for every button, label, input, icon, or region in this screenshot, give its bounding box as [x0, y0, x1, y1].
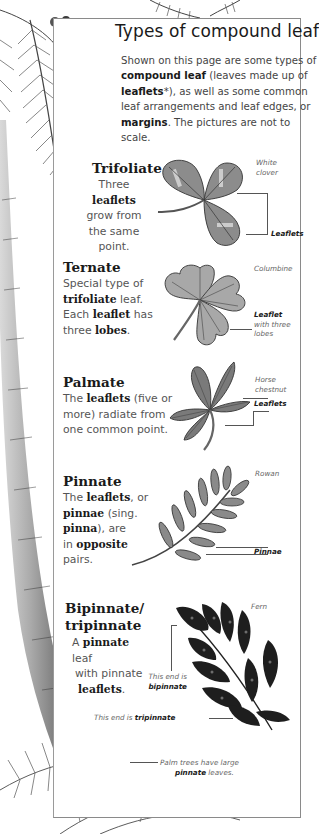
ternate-leaflet-label: Leaflet with three lobes: [254, 310, 300, 339]
columbine-leaf-icon: [160, 260, 250, 350]
bipinnate-description: A pinnate leaf with pinnate leaflets.: [72, 635, 152, 697]
fern-leaf-icon: [172, 600, 292, 735]
page-title: Types of compound leaf: [115, 21, 315, 41]
trifoliate-description: Three leaflets grow from the same point.: [72, 177, 156, 255]
pinnate-heading: Pinnate: [63, 473, 121, 489]
ternate-leader: [230, 329, 252, 330]
trifoliate-leader-top: [237, 193, 267, 194]
tripinnate-leader: [209, 718, 233, 719]
trifoliate-leader-vertical: [267, 193, 268, 234]
palmate-leaflets-label: Leaflets: [254, 399, 287, 409]
palm-note: Palm trees have large pinnate leaves.: [160, 758, 260, 777]
palmate-leader-mid: [253, 411, 269, 412]
palmate-leader-vertical: [253, 411, 254, 425]
columbine-caption: Columbine: [254, 264, 293, 274]
trifoliate-leaflets-label: Leaflets: [271, 229, 304, 239]
tripinnate-end-label: This end is tripinnate: [94, 713, 175, 723]
trifoliate-leader-bottom: [246, 234, 268, 235]
palmate-heading: Palmate: [63, 374, 125, 390]
ternate-description: Special type of trifoliate leaf. Each le…: [63, 276, 163, 338]
clover-caption: White clover: [256, 158, 296, 177]
pinnae-label: Pinnae: [254, 547, 282, 557]
palmate-description: The leaflets (five or more) radiate from…: [63, 391, 173, 438]
rowan-leaf-icon: [130, 470, 250, 570]
rowan-caption: Rowan: [255, 469, 279, 479]
bipinnate-leader-top: [171, 625, 177, 626]
fern-caption: Fern: [251, 602, 267, 612]
bipinnate-leader-vertical: [171, 625, 172, 671]
bipinnate-end-label: This end is bipinnate: [145, 672, 187, 691]
horse-chestnut-leaf-icon: [168, 360, 253, 455]
trifoliate-heading: Trifoliate: [92, 160, 162, 176]
ternate-heading: Ternate: [63, 259, 121, 275]
bipinnate-heading: Bipinnate/ tripinnate: [65, 600, 144, 634]
horse-chestnut-caption: Horse chestnut: [255, 375, 295, 394]
intro-paragraph: Shown on this page are some types of com…: [121, 53, 317, 145]
palmate-leader-bottom: [225, 425, 254, 426]
clover-leaf-icon: [155, 155, 265, 255]
palm-note-leader: [130, 762, 158, 763]
